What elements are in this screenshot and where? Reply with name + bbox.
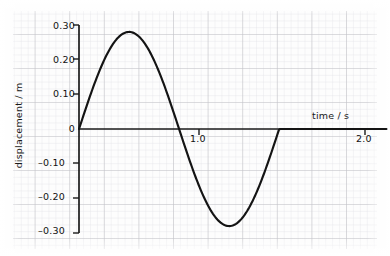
y-tick-label-0.20: 0.20 (41, 54, 75, 65)
y-tick-label-minus-0.20: –0.20 (38, 191, 75, 202)
y-tick-label-minus-0.10: –0.10 (38, 157, 75, 168)
y-tick-label-0.10: 0.10 (41, 88, 75, 99)
y-tick-label-0: 0 (50, 123, 75, 134)
x-axis-label: time / s (312, 110, 349, 121)
x-tick-label-2.0: 2.0 (356, 133, 372, 144)
x-tick-label-1.0: 1.0 (190, 133, 206, 144)
displacement-time-chart: displacement / m time / s 0.30 0.20 0.10… (0, 0, 390, 256)
y-tick-label-0.30: 0.30 (41, 20, 75, 31)
y-axis-label: displacement / m (13, 76, 24, 176)
y-tick-label-minus-0.30: –0.30 (38, 225, 75, 236)
